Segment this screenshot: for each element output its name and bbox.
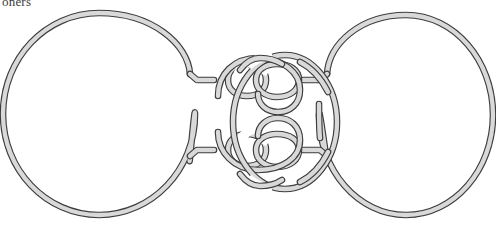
left-upper-connector (190, 74, 214, 80)
figure-canvas: oners (0, 0, 496, 225)
right-circle-over-oval (319, 104, 320, 138)
left-circle (3, 13, 195, 215)
knot-diagram (0, 0, 496, 225)
left-lower-connector (190, 150, 214, 156)
right-circle (319, 15, 493, 215)
